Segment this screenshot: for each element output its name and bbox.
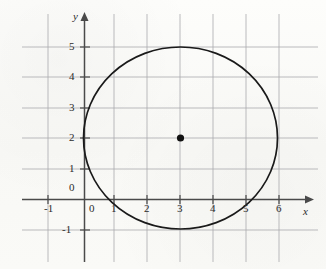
x-tick-label-5: 5 bbox=[243, 203, 249, 214]
center-point-dot bbox=[177, 134, 184, 141]
figure-container: -1 0 1 2 3 4 5 6 5 4 3 2 1 0 -1 y x bbox=[0, 0, 326, 269]
x-tick-label-6: 6 bbox=[276, 203, 282, 214]
y-tick-label-0: 0 bbox=[69, 182, 75, 193]
y-axis-label: y bbox=[73, 11, 78, 22]
x-tick-label-4: 4 bbox=[210, 203, 216, 214]
y-tick-label-1: 1 bbox=[69, 163, 75, 174]
horizontal-gridlines bbox=[22, 47, 318, 230]
x-tick-label--1: -1 bbox=[44, 203, 53, 214]
y-tick-label-5: 5 bbox=[69, 41, 75, 52]
y-tick-label--1: -1 bbox=[62, 224, 71, 235]
x-tick-label-0: 0 bbox=[89, 203, 95, 214]
x-tick-label-3: 3 bbox=[177, 203, 183, 214]
x-tick-label-2: 2 bbox=[144, 203, 150, 214]
y-tick-label-4: 4 bbox=[69, 71, 75, 82]
y-tick-label-3: 3 bbox=[69, 102, 75, 113]
x-axis-arrowhead bbox=[305, 196, 314, 204]
x-tick-label-1: 1 bbox=[111, 203, 117, 214]
y-axis-arrowhead bbox=[81, 12, 89, 21]
x-axis-label: x bbox=[303, 206, 308, 217]
y-tick-label-2: 2 bbox=[69, 132, 75, 143]
coordinate-plot bbox=[0, 0, 326, 269]
